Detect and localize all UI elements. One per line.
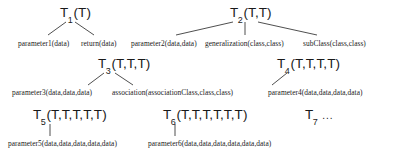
node-arguments: (T) xyxy=(73,5,91,20)
ellipsis-marker: ... xyxy=(318,110,333,121)
node-arguments: (T,T,T,T,T) xyxy=(46,107,106,122)
tree-leaf-label: parameter4(data,data,data,data) xyxy=(268,89,363,96)
tree-edge xyxy=(258,22,317,35)
tree-leaf-label: parameter5(data,data,data,data,data) xyxy=(8,140,117,147)
node-arguments: (T,T,T) xyxy=(111,56,150,71)
tree-node-t2: T2(T,T) xyxy=(230,6,272,23)
tree-edge xyxy=(88,73,104,85)
diagram-canvas: T1(T)T2(T,T)T3(T,T,T)T4(T,T,T,T)T5(T,T,T… xyxy=(0,0,394,161)
tree-leaf-label: subClass(class,class) xyxy=(303,40,366,47)
tree-node-t3: T3(T,T,T) xyxy=(98,57,150,74)
tree-node-t1: T1(T) xyxy=(60,6,91,23)
tree-edge xyxy=(176,22,233,35)
node-index: 4 xyxy=(285,66,290,76)
tree-edge xyxy=(115,73,133,85)
tree-leaf-label: parameter1(data) xyxy=(18,40,69,47)
node-index: 2 xyxy=(238,15,243,25)
tree-leaf-label: association(associationClass,class,class… xyxy=(112,89,233,96)
tree-leaf-label: return(data) xyxy=(81,40,116,47)
tree-node-t7: T7 ... xyxy=(305,108,334,125)
tree-leaf-label: parameter2(data,data) xyxy=(131,40,197,47)
node-index: 1 xyxy=(68,15,73,25)
tree-node-t4: T4(T,T,T,T) xyxy=(277,57,340,74)
tree-edge xyxy=(75,22,94,35)
node-index: 5 xyxy=(41,117,46,127)
node-arguments: (T,T,T,T,T,T) xyxy=(176,107,247,122)
node-arguments: (T,T,T,T) xyxy=(290,56,340,71)
tree-edge xyxy=(48,22,66,35)
node-index: 3 xyxy=(106,66,111,76)
tree-leaf-label: parameter3(data,data,data) xyxy=(12,89,92,96)
node-index: 7 xyxy=(313,117,318,127)
tree-node-t5: T5(T,T,T,T,T) xyxy=(33,108,107,125)
edge-layer xyxy=(0,0,394,161)
node-arguments: (T,T) xyxy=(243,5,271,20)
tree-node-t6: T6(T,T,T,T,T,T) xyxy=(163,108,248,125)
node-index: 6 xyxy=(171,117,176,127)
tree-leaf-label: parameter6(data,data,data,data,data,data… xyxy=(148,140,271,147)
tree-leaf-label: generalization(class,class) xyxy=(205,40,284,47)
